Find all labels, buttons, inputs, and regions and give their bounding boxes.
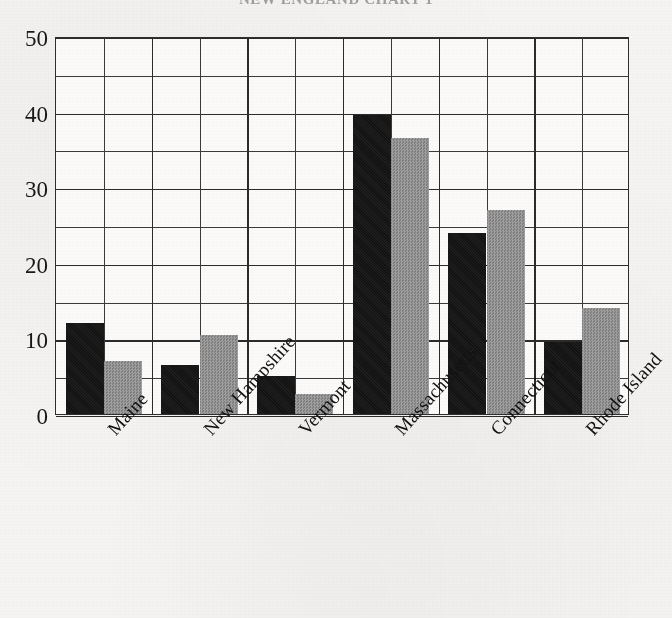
y-axis-tick-label: 0 xyxy=(37,405,49,428)
y-axis-tick-label: 20 xyxy=(25,253,48,276)
y-axis-tick-label: 50 xyxy=(25,27,48,50)
y-axis-tick-label: 10 xyxy=(25,329,48,352)
gridline-major-vertical xyxy=(247,38,248,414)
gridline-major-vertical xyxy=(343,38,344,414)
gridline-major-vertical xyxy=(534,38,535,414)
bar xyxy=(353,115,391,414)
gridline-major-horizontal xyxy=(56,38,628,39)
gridline-major-horizontal xyxy=(56,340,628,341)
gridline-minor-vertical xyxy=(295,38,296,414)
plot-area: 01020304050 xyxy=(55,37,629,415)
bar xyxy=(66,323,104,414)
gridline-minor-horizontal xyxy=(56,303,628,304)
gridline-major-horizontal xyxy=(56,189,628,190)
chart-title: NEW ENGLAND CHART 1 xyxy=(0,0,672,8)
gridline-major-horizontal xyxy=(56,114,628,115)
bar xyxy=(161,365,199,414)
gridline-minor-horizontal xyxy=(56,76,628,77)
gridline-major-vertical xyxy=(152,38,153,414)
bar-chart-figure: NEW ENGLAND CHART 1 01020304050 MaineNew… xyxy=(0,0,672,618)
gridline-major-horizontal xyxy=(56,416,628,417)
y-axis-tick-label: 30 xyxy=(25,178,48,201)
gridline-major-horizontal xyxy=(56,265,628,266)
y-axis-tick-label: 40 xyxy=(25,102,48,125)
gridline-minor-vertical xyxy=(104,38,105,414)
gridline-minor-horizontal xyxy=(56,151,628,152)
bar xyxy=(487,210,525,414)
gridline-minor-horizontal xyxy=(56,227,628,228)
bar xyxy=(391,138,429,414)
gridline-major-vertical xyxy=(439,38,440,414)
